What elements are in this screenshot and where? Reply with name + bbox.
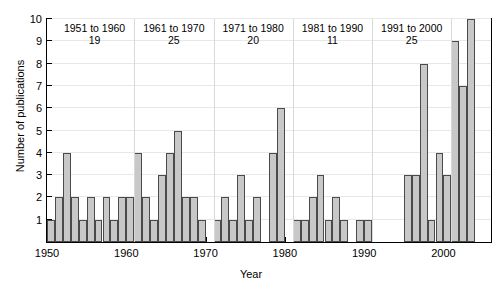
x-tick-mark-1980: [285, 237, 286, 242]
bar-1989: [356, 220, 364, 242]
bar-1982: [301, 220, 309, 242]
bar-1955: [87, 197, 95, 242]
y-tick-mark-2: [47, 196, 52, 197]
x-tick-label-1950: 1950: [35, 247, 59, 259]
y-tick-label-10: 10: [30, 14, 42, 25]
bar-1967: [182, 197, 190, 242]
bar-1985: [325, 220, 333, 242]
y-tick-mark-8: [47, 63, 52, 64]
bar-1975: [245, 220, 253, 242]
bar-1957: [103, 197, 111, 242]
bar-2002: [459, 86, 467, 242]
bar-1995: [404, 175, 412, 242]
group-separator-1991: [372, 19, 373, 242]
y-tick-label-8: 8: [36, 58, 42, 69]
gridline-y-10: [47, 18, 491, 19]
bar-1986: [332, 197, 340, 242]
bar-1973: [229, 220, 237, 242]
bar-1999: [436, 153, 444, 242]
y-tick-label-4: 4: [36, 147, 42, 158]
bar-1990: [364, 220, 372, 242]
x-tick-mark-1970: [206, 237, 207, 242]
group-range-label: 1991 to 2000: [381, 22, 442, 34]
bar-1969: [198, 220, 206, 242]
bar-1961: [134, 153, 142, 242]
y-axis-label: Number of publications: [14, 36, 26, 196]
group-separator-end-2000: [451, 19, 452, 242]
y-tick-label-3: 3: [36, 170, 42, 181]
group-separator-1961: [134, 19, 135, 242]
bar-1963: [150, 220, 158, 242]
y-tick-mark-7: [47, 85, 52, 86]
bar-1972: [221, 197, 229, 242]
bar-1996: [412, 175, 420, 242]
group-header-1971-1980: 1971 to 198020: [214, 22, 293, 46]
bar-1960: [126, 197, 134, 242]
group-count-label: 20: [214, 34, 293, 46]
bar-1981: [293, 220, 301, 242]
bar-1978: [269, 153, 277, 242]
bar-1952: [63, 153, 71, 242]
group-header-1981-1990: 1981 to 199011: [293, 22, 372, 46]
bar-1958: [110, 220, 118, 242]
bar-1997: [420, 64, 428, 242]
y-tick-mark-9: [47, 40, 52, 41]
x-tick-label-2000: 2000: [431, 247, 455, 259]
group-range-label: 1951 to 1960: [64, 22, 125, 34]
bar-1964: [158, 175, 166, 242]
plot-area: 123456789101950196019701980199020001951 …: [46, 18, 492, 243]
bar-1966: [174, 131, 182, 243]
group-header-1951-1960: 1951 to 196019: [55, 22, 134, 46]
bar-1984: [317, 175, 325, 242]
bar-1968: [190, 197, 198, 242]
bar-1951: [55, 197, 63, 242]
bar-2001: [451, 41, 459, 242]
x-tick-label-1960: 1960: [114, 247, 138, 259]
bar-1979: [277, 108, 285, 242]
group-count-label: 25: [372, 34, 451, 46]
bar-1956: [95, 220, 103, 242]
group-range-label: 1971 to 1980: [222, 22, 283, 34]
x-tick-label-1990: 1990: [352, 247, 376, 259]
group-header-1991-2000: 1991 to 200025: [372, 22, 451, 46]
group-count-label: 25: [134, 34, 213, 46]
bar-1976: [253, 197, 261, 242]
y-tick-label-1: 1: [36, 214, 42, 225]
y-tick-label-7: 7: [36, 80, 42, 91]
bar-2000: [443, 175, 451, 242]
x-axis-label: Year: [0, 268, 502, 280]
group-range-label: 1961 to 1970: [143, 22, 204, 34]
bar-1998: [428, 220, 436, 242]
y-tick-mark-10: [47, 18, 52, 19]
group-separator-1971: [214, 19, 215, 242]
bar-1987: [340, 220, 348, 242]
y-tick-label-5: 5: [36, 125, 42, 136]
bar-1965: [166, 153, 174, 242]
y-tick-label-9: 9: [36, 36, 42, 47]
group-header-1961-1970: 1961 to 197025: [134, 22, 213, 46]
y-tick-mark-3: [47, 174, 52, 175]
group-count-label: 11: [293, 34, 372, 46]
x-tick-label-1980: 1980: [273, 247, 297, 259]
group-separator-1981: [293, 19, 294, 242]
bar-1974: [237, 175, 245, 242]
bar-1959: [118, 197, 126, 242]
y-tick-mark-5: [47, 130, 52, 131]
y-tick-mark-4: [47, 152, 52, 153]
bar-1953: [71, 197, 79, 242]
bar-2003: [467, 19, 475, 242]
publications-per-year-bar-chart: Number of publications Year 123456789101…: [0, 0, 502, 287]
bar-1971: [214, 220, 222, 242]
group-range-label: 1981 to 1990: [302, 22, 363, 34]
bar-1962: [142, 197, 150, 242]
bar-1950: [47, 220, 55, 242]
y-tick-label-2: 2: [36, 192, 42, 203]
y-tick-mark-6: [47, 107, 52, 108]
bar-1983: [309, 197, 317, 242]
y-tick-label-6: 6: [36, 103, 42, 114]
bar-1954: [79, 220, 87, 242]
x-tick-label-1970: 1970: [193, 247, 217, 259]
group-count-label: 19: [55, 34, 134, 46]
